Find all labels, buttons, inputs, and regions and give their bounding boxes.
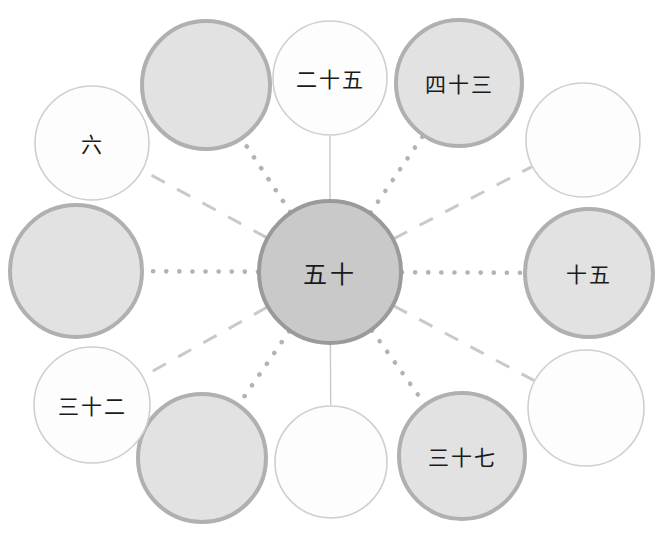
connector-node-lower-left-inner: [239, 331, 289, 404]
circle-center-node[interactable]: [259, 201, 401, 343]
circle-node-top[interactable]: [273, 21, 387, 135]
connector-node-upper-right-outer: [394, 167, 532, 239]
circle-node-lower-left-outer[interactable]: [34, 347, 150, 463]
radial-diagram-canvas: 二十五四十三十五三十七三十二六五十: [0, 0, 664, 538]
circle-node-bottom[interactable]: [275, 406, 387, 518]
circle-node-right[interactable]: [525, 209, 653, 337]
connector-node-upper-left-outer: [143, 171, 267, 238]
connector-node-lower-left-outer: [144, 307, 268, 376]
circle-node-upper-right-inner[interactable]: [396, 20, 522, 146]
circle-node-left[interactable]: [10, 205, 142, 337]
circle-node-upper-left-inner[interactable]: [142, 21, 270, 149]
connector-node-lower-right-inner: [372, 331, 425, 404]
circle-node-lower-left-inner[interactable]: [138, 394, 266, 522]
circle-node-upper-left-outer[interactable]: [35, 86, 149, 200]
circle-node-lower-right-inner[interactable]: [399, 393, 525, 519]
connector-node-lower-right-outer: [394, 306, 534, 381]
connector-node-upper-right-inner: [371, 136, 423, 213]
connector-node-upper-left-inner: [242, 139, 290, 212]
circle-node-lower-right-outer[interactable]: [528, 350, 644, 466]
diagram-svg: [0, 0, 664, 538]
center-node-layer: [259, 201, 401, 343]
circle-node-upper-right-outer[interactable]: [526, 83, 640, 197]
